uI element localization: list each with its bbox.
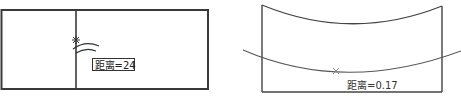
cross-marker-icon: [333, 68, 339, 74]
left-rectangle: [2, 10, 209, 89]
snap-arc-outer: [73, 44, 99, 49]
star-marker-icon: [72, 36, 80, 44]
left-distance-label: 距离=24: [95, 59, 136, 71]
right-distance-label: 距离=0.17: [347, 79, 398, 91]
left-figure: 距离=24: [2, 10, 209, 89]
snap-arc-inner: [76, 49, 96, 53]
right-figure: 距离=0.17: [243, 5, 461, 92]
right-crossing-curve: [243, 50, 461, 72]
right-top-arc: [262, 5, 442, 24]
diagram-canvas: 距离=24 距离=0.17: [0, 0, 461, 101]
